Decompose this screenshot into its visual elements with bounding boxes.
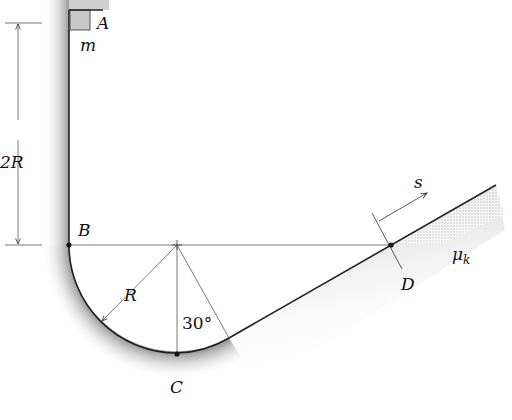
label-a: A — [95, 13, 109, 33]
label-c: C — [170, 377, 183, 397]
block-m — [70, 10, 90, 30]
label-b: B — [77, 220, 91, 240]
label-2r: 2R — [0, 152, 24, 172]
track-diagram: A m 2R B R 30° C D s μk — [0, 0, 512, 420]
wall-shading — [44, 0, 69, 245]
point-b — [66, 242, 71, 247]
top-shading — [69, 0, 109, 10]
point-c — [174, 351, 179, 356]
s-arrow — [379, 193, 427, 221]
label-s: s — [414, 172, 423, 192]
curve-shading — [44, 245, 250, 378]
point-d — [388, 242, 393, 247]
label-d: D — [400, 274, 415, 294]
label-m: m — [80, 35, 96, 55]
label-angle: 30° — [182, 313, 212, 333]
label-r: R — [123, 285, 137, 305]
radius-arrow — [102, 245, 177, 321]
